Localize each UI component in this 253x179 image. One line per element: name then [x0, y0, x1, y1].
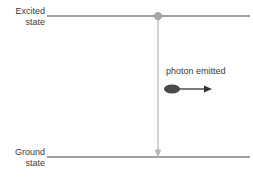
energy-level-diagram: Excited state Ground state photon emitte…: [0, 0, 253, 179]
photon-arrowhead-icon: [204, 86, 212, 93]
transition-arrowhead-icon: [155, 150, 161, 158]
photon-particle-icon: [164, 84, 180, 93]
ground-state-label-line-1: Ground: [0, 147, 45, 158]
excited-state-label: Excited state: [0, 6, 45, 28]
ground-state-label-line-2: state: [0, 158, 45, 169]
ground-state-label: Ground state: [0, 147, 45, 169]
photon-emitted-label: photon emitted: [166, 66, 226, 77]
excited-state-label-line-1: Excited: [0, 6, 45, 17]
electron-marker-icon: [154, 12, 161, 19]
excited-state-label-line-2: state: [0, 17, 45, 28]
